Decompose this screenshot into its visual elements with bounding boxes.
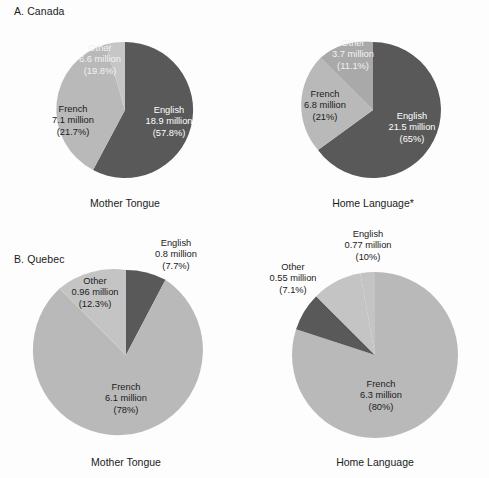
slice-label-other: Other 3.7 million (11.1%): [332, 38, 374, 72]
chart-quebec-home-language: English 0.77 million (10%) French 6.3 mi…: [249, 236, 489, 478]
pie-quebec-mother-tongue: [0, 236, 250, 461]
slice-label-other: Other 6.6 million (19.8%): [79, 43, 121, 77]
chart-quebec-mother-tongue: English 0.8 million (7.7%) French 6.1 mi…: [0, 236, 250, 478]
pie-canada-home-language: [249, 0, 489, 200]
slice-label-french: French 6.1 million (78%): [105, 382, 147, 416]
slice-label-other: Other 0.96 million (12.3%): [71, 276, 118, 310]
caption-canada-home-language: Home Language*: [332, 197, 414, 209]
caption-quebec-mother-tongue: Mother Tongue: [91, 456, 161, 468]
figure-canvas: A. Canada English 18.9 million (57.8%) F…: [0, 0, 489, 478]
chart-canada-home-language: English 21.5 million (65%) French 6.8 mi…: [249, 0, 489, 230]
slice-label-other: Other 0.55 million (7.1%): [269, 262, 316, 296]
slice-label-french: French 6.3 million (80%): [360, 379, 402, 413]
slice-label-english: English 0.8 million (7.7%): [155, 238, 197, 272]
caption-quebec-home-language: Home Language: [336, 456, 414, 468]
slice-label-english: English 21.5 million (65%): [388, 111, 435, 145]
slice-label-english: English 0.77 million (10%): [344, 229, 391, 263]
slice-label-french: French 7.1 million (21.7%): [52, 104, 94, 138]
slice-label-french: French 6.8 million (21%): [304, 89, 346, 123]
chart-canada-mother-tongue: English 18.9 million (57.8%) French 7.1 …: [0, 0, 250, 230]
caption-canada-mother-tongue: Mother Tongue: [90, 197, 160, 209]
slice-label-english: English 18.9 million (57.8%): [145, 105, 192, 139]
pie-canada-mother-tongue: [0, 0, 250, 200]
